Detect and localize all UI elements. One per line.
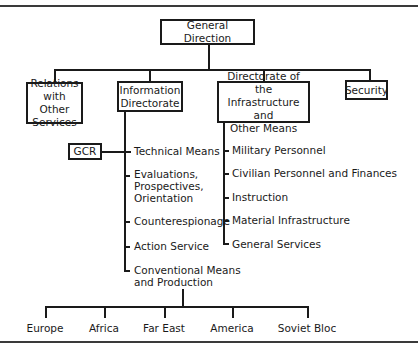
- node-information-directorate: Information Directorate: [117, 81, 183, 112]
- infra-item-instruction: Instruction: [232, 191, 288, 203]
- item-line: and Production: [134, 276, 241, 288]
- node-general-direction: General Direction: [160, 19, 255, 45]
- infra-item-civilian-personnel: Civilian Personnel and Finances: [232, 167, 397, 179]
- region-soviet-bloc: Soviet Bloc: [278, 322, 336, 334]
- connector: [232, 306, 234, 318]
- node-label: GCR: [74, 145, 97, 158]
- connector: [223, 197, 229, 199]
- item-line: Evaluations,: [134, 168, 204, 180]
- connector: [223, 243, 229, 245]
- infra-item-general-services: General Services: [232, 238, 321, 250]
- connector: [208, 45, 210, 70]
- info-item-technical-means: Technical Means: [134, 145, 220, 157]
- info-item-conventional-means: Conventional Means and Production: [134, 264, 241, 288]
- top-rule: [0, 5, 418, 7]
- node-label-line: Relations: [28, 77, 81, 90]
- item-line: Prospectives,: [134, 180, 204, 192]
- connector: [164, 306, 166, 318]
- node-gcr: GCR: [68, 143, 102, 160]
- connector: [124, 221, 130, 223]
- node-label: General Direction: [162, 19, 253, 45]
- connector: [124, 175, 130, 177]
- connector: [124, 246, 130, 248]
- bottom-rule: [0, 341, 418, 343]
- connector: [54, 69, 370, 71]
- connector: [223, 173, 229, 175]
- infra-item-material-infrastructure: Material Infrastructure: [232, 214, 350, 226]
- node-label-line: Infrastructure and: [219, 96, 308, 122]
- region-america: America: [210, 322, 253, 334]
- region-africa: Africa: [89, 322, 119, 334]
- connector: [104, 306, 106, 318]
- connector: [102, 151, 131, 153]
- node-label-line: Directorate of the: [219, 70, 308, 96]
- node-label: Security: [345, 84, 388, 97]
- connector: [223, 150, 229, 152]
- node-label-line: Services: [28, 116, 81, 129]
- node-infrastructure-directorate: Directorate of the Infrastructure and Ot…: [217, 81, 310, 123]
- region-far-east: Far East: [143, 322, 185, 334]
- region-europe: Europe: [27, 322, 64, 334]
- infra-item-military-personnel: Military Personnel: [232, 144, 326, 156]
- node-label-line: Directorate: [120, 97, 181, 110]
- node-label-line: Information: [120, 84, 181, 97]
- node-security: Security: [345, 80, 388, 100]
- item-line: Orientation: [134, 192, 204, 204]
- info-item-evaluations: Evaluations, Prospectives, Orientation: [134, 168, 204, 204]
- connector: [182, 289, 184, 307]
- info-item-counterespionage: Counterespionage: [134, 215, 230, 227]
- connector: [149, 69, 151, 81]
- connector: [124, 270, 130, 272]
- connector: [307, 306, 309, 318]
- info-item-action-service: Action Service: [134, 240, 209, 252]
- connector: [223, 123, 225, 244]
- connector: [369, 69, 371, 80]
- node-label-line: with Other: [28, 90, 81, 116]
- node-label-line: Other Means: [219, 122, 308, 135]
- connector: [45, 306, 308, 308]
- item-line: Conventional Means: [134, 264, 241, 276]
- connector: [45, 306, 47, 318]
- connector: [223, 220, 229, 222]
- node-relations-other-services: Relations with Other Services: [26, 82, 83, 124]
